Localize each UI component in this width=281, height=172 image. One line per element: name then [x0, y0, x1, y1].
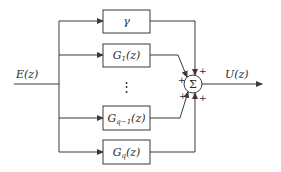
- path-gamma-to-sum: [150, 21, 195, 75]
- block-gq: Gq(z): [103, 140, 150, 164]
- input-label: E(z): [15, 68, 38, 81]
- output-signal: U(z): [202, 68, 262, 84]
- block-diagram: E(z) γ G1(z) ⋮ Gq−1(z) Gq(z) Σ + + + + U…: [0, 0, 281, 172]
- block-gq-minus-1: Gq−1(z): [103, 106, 150, 130]
- sign-gamma: +: [199, 66, 207, 76]
- block-g1: G1(z): [103, 44, 150, 67]
- sign-gq: +: [199, 93, 207, 103]
- sigma-symbol: Σ: [189, 78, 197, 91]
- input-signal: E(z): [14, 68, 59, 84]
- summing-junction: Σ: [184, 75, 202, 93]
- block-g1-label: G1(z): [113, 49, 141, 63]
- path-g1-to-sum: [150, 55, 187, 77]
- block-gamma-label: γ: [123, 15, 130, 28]
- path-gq-to-sum: [150, 93, 195, 152]
- sign-g1: +: [178, 75, 186, 85]
- sign-gq-minus-1: +: [179, 91, 187, 101]
- ellipsis: ⋮: [120, 79, 133, 94]
- output-label: U(z): [225, 68, 249, 81]
- block-gamma: γ: [103, 10, 150, 33]
- block-gq-label: Gq(z): [113, 146, 141, 160]
